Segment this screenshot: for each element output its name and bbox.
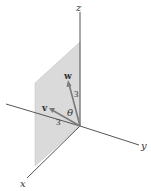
y-axis: [80, 126, 139, 145]
x-label: x: [20, 178, 26, 189]
vector-w-label: w: [63, 71, 72, 81]
z-label: z: [75, 2, 82, 13]
vector-diagram: z x y w v 3 3 θ: [0, 0, 151, 191]
vector-v-label: v: [41, 103, 48, 113]
angle-theta-label: θ: [67, 107, 73, 118]
vector-w-length: 3: [74, 89, 79, 99]
vector-v-length: 3: [56, 117, 61, 127]
y-label: y: [140, 140, 147, 151]
